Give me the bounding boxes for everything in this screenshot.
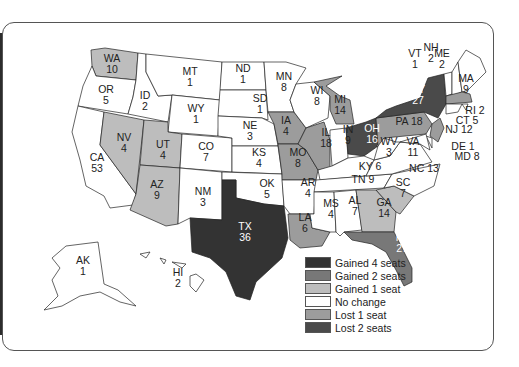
legend-item-lost1: Lost 1 seat <box>305 308 406 321</box>
legend-label: Gained 1 seat <box>335 283 400 295</box>
legend-label: Gained 4 seats <box>335 257 406 269</box>
state-label-FL: FL27 <box>396 231 408 254</box>
state-callout-NJ: NJ 12 <box>445 123 473 135</box>
state-callout-MD: MD 8 <box>454 150 479 162</box>
state-label-NY: NY27 <box>411 83 426 106</box>
state-label-ME: ME2 <box>434 47 450 70</box>
state-label-VA: VA11 <box>406 135 419 158</box>
legend-label: Gained 2 seats <box>335 270 406 282</box>
legend-label: Lost 1 seat <box>335 309 386 321</box>
legend-label: Lost 2 seats <box>335 322 392 334</box>
legend-item-gained1: Gained 1 seat <box>305 282 406 295</box>
state-label-WA: WA10 <box>104 52 121 75</box>
state-label-MI: MI14 <box>334 93 346 116</box>
legend-swatch <box>305 322 331 333</box>
legend-item-nochange: No change <box>305 295 406 308</box>
state-callout-TN: TN 9 <box>352 173 375 185</box>
legend-item-gained4: Gained 4 seats <box>305 256 406 269</box>
state-CT <box>446 104 462 114</box>
legend-item-gained2: Gained 2 seats <box>305 269 406 282</box>
state-label-GA: GA14 <box>376 196 391 219</box>
legend-swatch <box>305 283 331 294</box>
legend-swatch <box>305 296 331 307</box>
state-AK <box>44 242 136 310</box>
legend: Gained 4 seats Gained 2 seats Gained 1 s… <box>305 256 406 334</box>
state-callout-PA: PA 18 <box>395 115 422 127</box>
legend-swatch <box>305 270 331 281</box>
state-callout-KY: KY 6 <box>359 160 382 172</box>
state-label-HI: HI2 <box>173 266 184 289</box>
state-label-TX: TX36 <box>238 220 251 243</box>
state-NY <box>376 74 446 118</box>
state-label-IL: IL18 <box>320 126 332 149</box>
state-MT <box>146 54 222 100</box>
legend-label: No change <box>335 296 386 308</box>
state-label-OH: OH16 <box>364 122 380 145</box>
state-label-VT: VT1 <box>408 47 422 70</box>
legend-item-lost2: Lost 2 seats <box>305 321 406 334</box>
us-congressional-apportionment-map: WA10OR5CA53ID2NV4MT1WY1UT4AZ9CO7NM3ND1SD… <box>0 0 519 367</box>
legend-swatch <box>305 257 331 268</box>
state-label-CA: CA53 <box>90 151 105 174</box>
legend-swatch <box>305 309 331 320</box>
state-callout-NC: NC 13 <box>409 162 439 174</box>
